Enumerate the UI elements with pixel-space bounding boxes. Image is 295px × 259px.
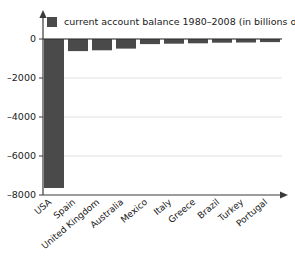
- y-tick-label-minus8000: –8000: [7, 189, 36, 200]
- chart-canvas: 0 –2000 –4000 –6000 –8000 USA Spain Unit…: [0, 0, 295, 259]
- x-tick-label-mexico: Mexico: [119, 197, 150, 225]
- chart-legend: current account balance 1980–2008 (in bi…: [47, 16, 295, 27]
- x-tick-label-greece: Greece: [166, 197, 197, 226]
- bar-usa: [44, 39, 64, 188]
- y-tick-label-minus4000: –4000: [7, 111, 36, 122]
- gridlines: [43, 39, 282, 156]
- legend-label: current account balance 1980–2008 (in bi…: [64, 16, 295, 27]
- x-axis-tick-labels: USA Spain United Kingdom Australia Mexic…: [33, 196, 270, 251]
- y-tick-label-minus6000: –6000: [7, 150, 36, 161]
- x-axis-arrow-icon: [280, 191, 288, 198]
- bar-series: [44, 39, 280, 188]
- bar-spain: [68, 39, 88, 51]
- bar-united-kingdom: [92, 39, 112, 50]
- bar-mexico: [140, 39, 160, 44]
- y-tick-label-0: 0: [30, 33, 36, 44]
- legend-swatch-icon: [47, 17, 57, 27]
- bar-italy: [164, 39, 184, 44]
- y-axis-tick-labels: 0 –2000 –4000 –6000 –8000: [7, 33, 36, 200]
- bar-greece: [188, 39, 208, 43]
- bar-australia: [116, 39, 136, 49]
- y-axis-arrow-icon: [39, 10, 46, 18]
- bar-chart: 0 –2000 –4000 –6000 –8000 USA Spain Unit…: [0, 0, 295, 259]
- y-tick-label-minus2000: –2000: [7, 72, 36, 83]
